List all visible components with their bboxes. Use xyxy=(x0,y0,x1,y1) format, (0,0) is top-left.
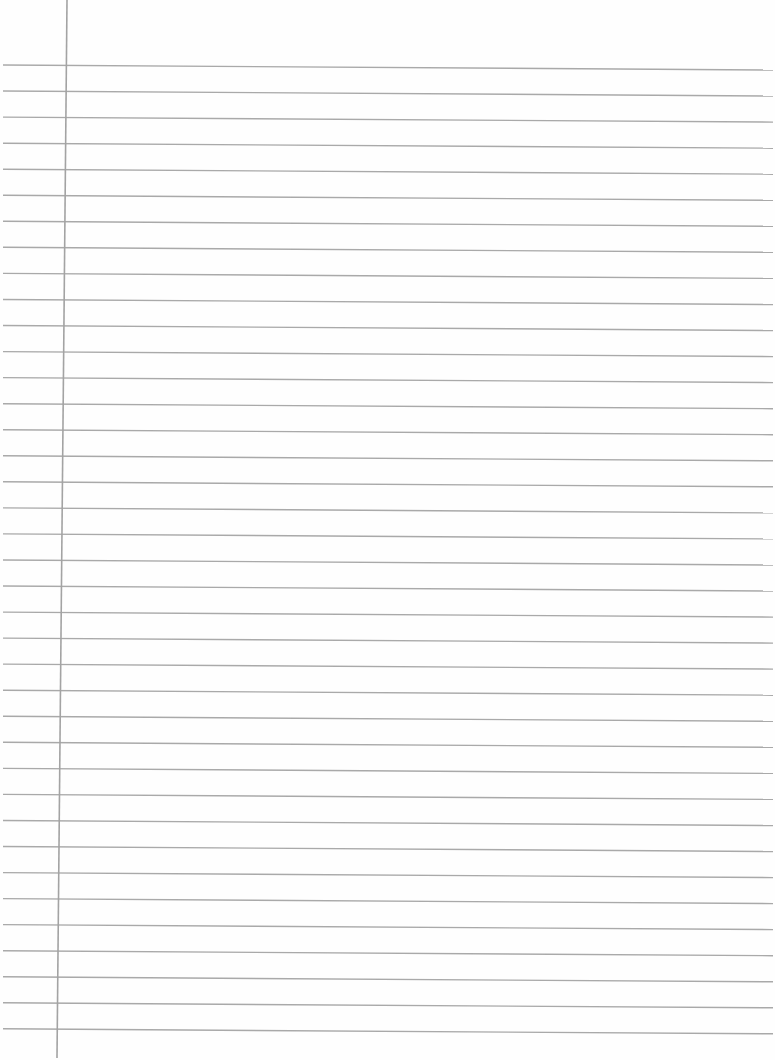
ruled-line xyxy=(3,378,773,383)
ruled-line xyxy=(3,794,773,799)
ruled-line xyxy=(3,273,773,278)
ruled-line xyxy=(3,65,773,70)
ruled-line xyxy=(3,247,773,252)
ruled-line xyxy=(3,560,773,565)
ruled-line xyxy=(3,430,773,435)
ruled-line xyxy=(3,91,773,96)
ruled-line xyxy=(3,742,773,747)
ruled-line xyxy=(3,847,773,852)
paper-rules xyxy=(0,0,775,1060)
ruled-line xyxy=(3,482,773,487)
lined-paper-sheet xyxy=(0,0,775,1060)
ruled-line xyxy=(3,352,773,357)
ruled-line xyxy=(3,768,773,773)
ruled-line xyxy=(3,169,773,174)
ruled-line xyxy=(3,951,773,956)
ruled-line xyxy=(3,404,773,409)
ruled-line xyxy=(3,821,773,826)
ruled-line xyxy=(3,716,773,721)
ruled-line xyxy=(3,195,773,200)
ruled-line xyxy=(3,977,773,982)
ruled-line xyxy=(3,143,773,148)
ruled-line xyxy=(3,326,773,331)
ruled-line xyxy=(3,899,773,904)
ruled-line xyxy=(3,638,773,643)
ruled-line xyxy=(3,873,773,878)
ruled-line xyxy=(3,664,773,669)
ruled-line xyxy=(3,690,773,695)
ruled-line xyxy=(3,221,773,226)
ruled-line xyxy=(3,117,773,122)
ruled-line xyxy=(3,1003,773,1008)
ruled-line xyxy=(3,456,773,461)
ruled-line xyxy=(3,612,773,617)
ruled-line xyxy=(3,1029,773,1034)
ruled-line xyxy=(3,925,773,930)
ruled-line xyxy=(3,300,773,305)
ruled-line xyxy=(3,534,773,539)
ruled-line xyxy=(3,508,773,513)
ruled-line xyxy=(3,586,773,591)
